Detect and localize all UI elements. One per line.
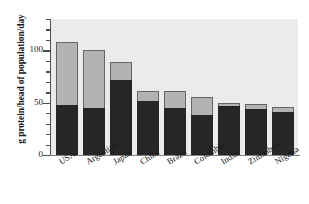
y-tick-minor [46,92,50,93]
chart-figure: g protein/head of population/day 050100 … [0,0,309,204]
bar-segment-other-protein [164,91,186,108]
bar-usa [56,42,78,155]
y-tick-minor [46,61,50,62]
bar-china [137,91,159,155]
y-tick-minor [46,82,50,83]
y-tick-major [43,50,50,51]
y-tick-minor [46,124,50,125]
y-tick-major [43,155,50,156]
bar-segment-other-protein [191,97,213,115]
y-axis-title: g protein/head of population/day [16,4,26,154]
bar-segment-other-protein [83,50,105,108]
y-tick-label: 0 [39,150,44,159]
y-tick-minor [46,113,50,114]
bar-segment-other-protein [137,91,159,100]
bar-segment-other-protein [56,42,78,105]
bar-segment-animal-protein [56,105,78,155]
bar-segment-other-protein [110,62,132,80]
y-tick-minor [46,145,50,146]
y-tick-label: 50 [34,98,43,107]
bar-argentina [83,50,105,155]
y-tick-minor [46,134,50,135]
y-tick-minor [46,19,50,20]
y-tick-label: 100 [30,45,44,54]
y-tick-major [43,103,50,104]
y-tick-minor [46,40,50,41]
y-tick-minor [46,71,50,72]
y-tick-minor [46,29,50,30]
